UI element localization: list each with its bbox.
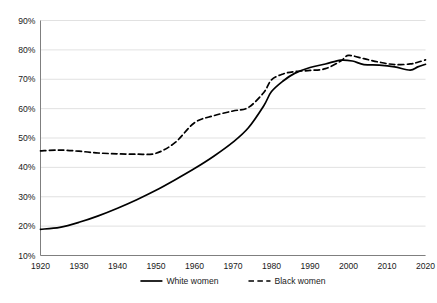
y-tick-label: 80% [18,45,36,55]
chart-legend: White womenBlack women [140,276,325,286]
line-chart: 10%20%30%40%50%60%70%80%90% 192019301940… [0,0,437,303]
gridlines [41,21,426,256]
x-tick-label: 2020 [416,261,435,271]
y-tick-label: 10% [18,251,36,261]
y-tick-label: 50% [18,133,36,143]
y-axis-tick-labels: 10%20%30%40%50%60%70%80%90% [18,16,36,261]
x-tick-label: 1980 [262,261,281,271]
y-tick-label: 70% [18,74,36,84]
x-tick-label: 1990 [300,261,319,271]
x-tick-label: 1930 [69,261,88,271]
legend-label-white-women: White women [166,276,218,286]
series-line-black-women [41,55,426,154]
x-tick-label: 1950 [146,261,165,271]
y-tick-label: 30% [18,192,36,202]
y-tick-label: 40% [18,162,36,172]
x-tick-label: 1960 [185,261,204,271]
x-tick-label: 1940 [108,261,127,271]
series-line-white-women [41,60,426,229]
data-series [41,55,426,229]
x-tick-label: 1970 [223,261,242,271]
chart-canvas: 10%20%30%40%50%60%70%80%90% 192019301940… [0,0,437,303]
x-tick-label: 1920 [31,261,50,271]
x-tick-label: 2000 [339,261,358,271]
x-tick-label: 2010 [377,261,396,271]
x-axis-tick-labels: 1920193019401950196019701980199020002010… [31,261,435,271]
y-tick-label: 60% [18,104,36,114]
y-tick-label: 90% [18,16,36,26]
legend-label-black-women: Black women [274,276,325,286]
y-tick-label: 20% [18,221,36,231]
